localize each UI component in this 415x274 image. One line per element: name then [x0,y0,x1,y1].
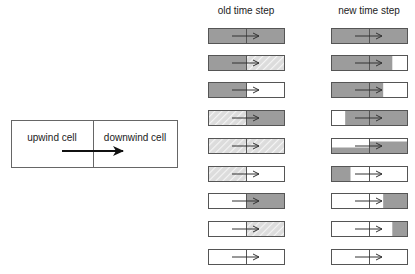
new-cell-pair-row-3 [332,83,408,98]
filled-volume [392,222,407,237]
new-cell-pair-row-8 [332,222,408,237]
upwind-cell-label: upwind cell [27,132,76,143]
new-cell-pair-row-1 [332,29,408,44]
old-cell-pair-row-8 [209,222,285,237]
advection-diagram: upwind cell downwind cell [0,0,415,274]
old-cell-pair-row-3 [209,83,285,98]
filled-volume [332,167,351,182]
old-cell-pair-row-2 [209,56,285,71]
legend-cell-pair: upwind cell downwind cell [12,121,178,168]
filled-volume [370,142,408,154]
filled-volume [383,194,407,209]
old-cell-pair-row-5 [209,139,285,154]
filled-volume [332,148,370,154]
new-cell-pair-row-4 [332,111,408,126]
old-cell-pair-row-4 [209,111,285,126]
old-cell-pair-row-1 [209,29,285,44]
downwind-cell-label: downwind cell [104,132,166,143]
new-cell-pair-row-2 [332,56,408,71]
new-cell-pair-row-7 [332,194,408,209]
old-cell-pair-row-6 [209,167,285,182]
old-time-step-column [209,29,285,265]
new-time-step-column [332,29,408,265]
new-cell-pair-row-6 [332,167,408,182]
old-cell-pair-row-9 [209,250,285,265]
new-cell-pair-row-9 [332,250,408,265]
old-cell-pair-row-7 [209,194,285,209]
new-cell-pair-row-5 [332,139,408,154]
